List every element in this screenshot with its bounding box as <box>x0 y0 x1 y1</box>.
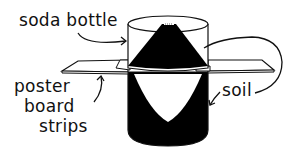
soda-bottle-label: soda bottle <box>19 10 118 30</box>
bottle-bottom <box>128 72 208 146</box>
poster-board-label-line-2: board <box>14 96 88 116</box>
soil-label: soil <box>222 80 252 100</box>
soda-bottle-arrow <box>78 33 126 45</box>
poster-board-strips-label: poster board strips <box>14 76 88 136</box>
poster-board-label-line-3: strips <box>14 116 88 136</box>
poster-board-label-line-1: poster <box>14 76 88 96</box>
diagram-canvas: soda bottle poster board strips soil <box>0 0 301 152</box>
bottle-top <box>128 16 208 71</box>
poster-board-arrow <box>94 76 104 102</box>
